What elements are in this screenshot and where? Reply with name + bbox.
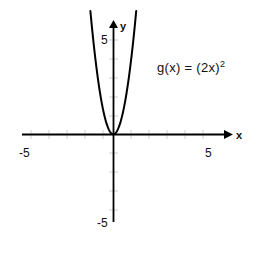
x-axis-label: x: [236, 129, 243, 141]
x-tick-label-positive-5: 5: [205, 146, 212, 160]
y-tick-label-negative-5: -5: [97, 216, 108, 230]
function-annotation-exponent: 2: [220, 59, 225, 69]
function-annotation-label: g(x) = (2x)2: [157, 60, 225, 75]
y-tick-label-positive-5: 5: [101, 33, 108, 47]
function-annotation-base: g(x) = (2x): [157, 60, 220, 75]
coordinate-plane-svg: x y -5 5 5 -5: [0, 0, 258, 255]
y-axis: [109, 20, 118, 222]
x-tick-label-negative-5: -5: [19, 146, 30, 160]
x-axis: [22, 130, 233, 139]
y-axis-label: y: [120, 20, 127, 32]
graph-figure: x y -5 5 5 -5 g(x) = (2x)2: [0, 0, 258, 255]
